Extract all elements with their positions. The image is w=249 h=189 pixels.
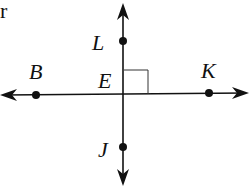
label-K: K xyxy=(200,58,217,83)
geometry-diagram: r L B E K J xyxy=(0,0,249,189)
label-B: B xyxy=(29,59,42,84)
label-E: E xyxy=(97,68,112,93)
label-J: J xyxy=(98,137,109,162)
point-L xyxy=(119,37,127,45)
point-K xyxy=(205,89,213,97)
corner-text: r xyxy=(0,0,8,23)
label-L: L xyxy=(91,30,104,55)
point-J xyxy=(119,143,127,151)
point-B xyxy=(32,91,40,99)
right-angle-mark xyxy=(124,70,148,94)
